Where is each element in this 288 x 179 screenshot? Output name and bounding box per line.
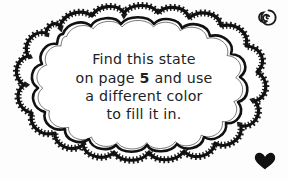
doodle-illustration	[0, 0, 288, 179]
cloud-callout	[16, 6, 265, 161]
worksheet-canvas: Find this state on page 5 and use a diff…	[0, 0, 288, 179]
